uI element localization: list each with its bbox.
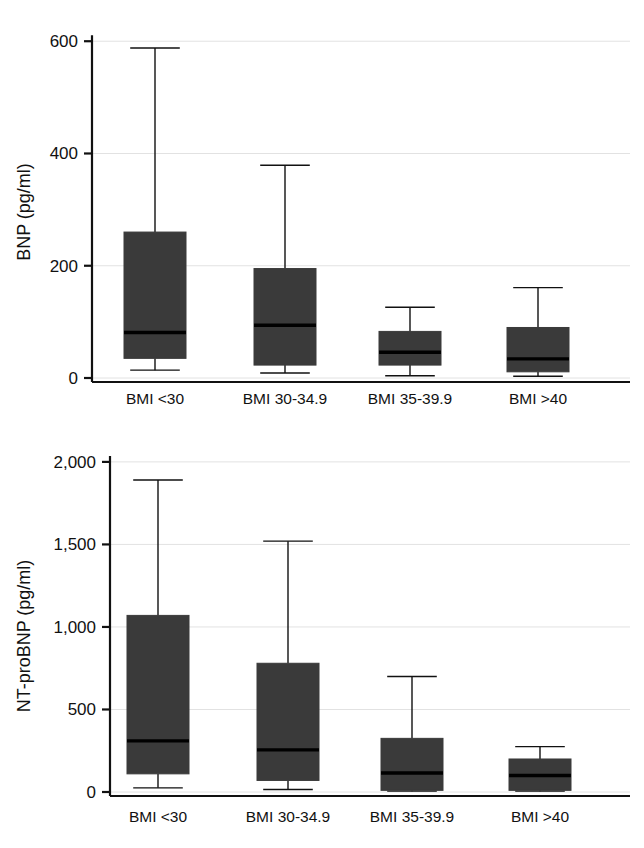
y-tick-label: 0 [87, 783, 96, 802]
category-label: BMI 30-34.9 [246, 808, 330, 825]
category-label: BMI >40 [511, 808, 570, 825]
y-tick-label: 1,000 [53, 618, 96, 637]
box-rect [507, 327, 569, 371]
bnp-plot-area: 0200400600BNP (pg/ml)BMI <30BMI 30-34.9B… [0, 0, 644, 424]
category-label: BMI 35-39.9 [370, 808, 454, 825]
box-rect [381, 738, 443, 790]
box-plot-group [127, 480, 189, 788]
y-axis-title: NT-proBNP (pg/ml) [14, 560, 34, 713]
category-label: BMI 30-34.9 [243, 390, 327, 407]
box-rect [379, 331, 441, 365]
box-plot-group [509, 747, 571, 792]
category-label: BMI >40 [509, 390, 568, 407]
box-plot-group [257, 541, 319, 789]
y-tick-label: 200 [50, 257, 78, 276]
box-rect [127, 615, 189, 773]
box-plot-group [124, 48, 186, 370]
y-axis-title: BNP (pg/ml) [14, 163, 34, 261]
box-plot-group [507, 288, 569, 377]
y-tick-label: 2,000 [53, 453, 96, 472]
box-rect [257, 663, 319, 780]
category-label: BMI <30 [126, 390, 185, 407]
y-tick-label: 600 [50, 32, 78, 51]
box-rect [124, 232, 186, 358]
box-plot-group [254, 165, 316, 373]
ntprobnp-panel: 05001,0001,5002,000NT-proBNP (pg/ml)BMI … [0, 424, 644, 848]
boxplot-figure: 0200400600BNP (pg/ml)BMI <30BMI 30-34.9B… [0, 0, 644, 848]
bnp-panel: 0200400600BNP (pg/ml)BMI <30BMI 30-34.9B… [0, 0, 644, 424]
category-label: BMI <30 [129, 808, 188, 825]
box-plot-group [379, 307, 441, 375]
box-rect [254, 269, 316, 366]
y-tick-label: 0 [69, 369, 78, 388]
category-label: BMI 35-39.9 [368, 390, 452, 407]
y-tick-label: 1,500 [53, 535, 96, 554]
box-plot-group [381, 676, 443, 791]
y-tick-label: 400 [50, 144, 78, 163]
ntprobnp-plot-area: 05001,0001,5002,000NT-proBNP (pg/ml)BMI … [0, 424, 644, 848]
y-tick-label: 500 [68, 700, 96, 719]
